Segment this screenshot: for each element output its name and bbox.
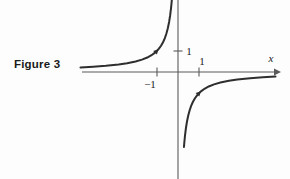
x-tick-label-minus-one: −1 [144, 78, 156, 90]
x-axis-arrowhead [274, 69, 281, 76]
x-tick-label-one: 1 [199, 55, 205, 67]
curve-branch-lower-right [184, 77, 276, 147]
y-tick-label-one: 1 [186, 45, 192, 57]
curve-branch-upper-left [80, 0, 172, 67]
graph-plot: −1 1 1 x [0, 0, 290, 179]
x-axis-label: x [268, 52, 274, 64]
curve-arrowheads [153, 49, 201, 96]
figure-container: Figure 3 −1 1 1 x [0, 0, 290, 179]
x-axis [82, 69, 281, 76]
